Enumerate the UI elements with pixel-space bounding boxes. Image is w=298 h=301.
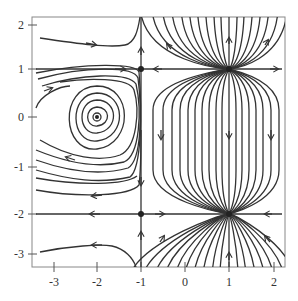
trajectory	[229, 17, 268, 69]
saddle-point	[138, 211, 144, 217]
node-point	[226, 211, 232, 217]
plot-frame	[32, 17, 285, 267]
y-tick-label: 1	[18, 62, 24, 76]
y-tick-label: -1	[14, 160, 24, 174]
x-tick-label: -1	[136, 275, 146, 289]
x-tick-label: -2	[92, 275, 102, 289]
saddle-point	[138, 66, 144, 72]
node-point	[226, 66, 232, 72]
x-tick-label: 2	[271, 275, 277, 289]
x-tick-label: -3	[49, 275, 59, 289]
node-trajectories	[134, 17, 292, 267]
trajectory	[198, 17, 229, 69]
center-point	[95, 115, 99, 119]
center-orbits	[36, 65, 141, 180]
phase-portrait: 210-1-2-3 -3-2-1012	[0, 0, 298, 301]
trajectory	[229, 69, 236, 214]
x-axis: -3-2-1012	[49, 262, 277, 289]
y-tick-label: 0	[18, 110, 24, 124]
trajectory	[229, 17, 287, 69]
trajectory	[222, 69, 229, 214]
y-tick-label: -2	[14, 207, 24, 221]
trajectory	[40, 17, 140, 46]
y-tick-label: -3	[14, 247, 24, 261]
y-tick-label: 2	[18, 18, 24, 32]
x-tick-label: 1	[226, 275, 232, 289]
x-tick-label: 0	[182, 275, 188, 289]
y-axis: 210-1-2-3	[14, 18, 37, 261]
